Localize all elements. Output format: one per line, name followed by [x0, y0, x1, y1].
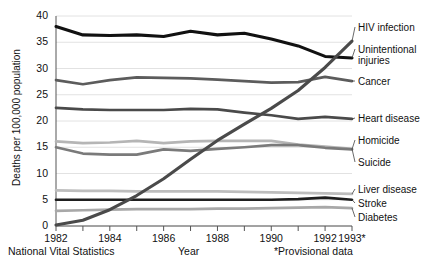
series-line-heart-disease: [56, 108, 352, 119]
x-tick-label: 1988: [197, 232, 237, 244]
leader-line: [352, 189, 355, 194]
series-label-injuries: injuries: [358, 55, 390, 66]
y-tick-label: 35: [26, 35, 48, 47]
y-tick-label: 5: [26, 193, 48, 205]
y-tick-label: 30: [26, 62, 48, 74]
x-axis-title: Year: [178, 245, 199, 257]
series-line-stroke: [56, 198, 352, 200]
y-tick-label: 0: [26, 219, 48, 231]
chart-figure: Deaths per 100,000 population HIV infect…: [0, 0, 430, 269]
source-caption: National Vital Statistics: [8, 245, 115, 257]
series-line-liver-disease: [56, 190, 352, 194]
series-label-unintentional: Unintentional: [358, 44, 416, 55]
series-label-diabetes: Diabetes: [358, 212, 397, 223]
series-label-hiv: HIV infection: [358, 22, 415, 33]
series-label-suicide: Suicide: [358, 157, 391, 168]
series-label-stroke: Stroke: [358, 198, 387, 209]
x-tick-label: 1984: [90, 232, 130, 244]
leader-line: [352, 149, 355, 162]
x-tick-label: 1990: [251, 232, 291, 244]
y-tick-label: 10: [26, 167, 48, 179]
y-tick-label: 25: [26, 88, 48, 100]
y-tick-label: 15: [26, 140, 48, 152]
x-tick-label: 1993*: [332, 232, 372, 244]
x-tick-label: 1986: [144, 232, 184, 244]
series-label-cancer: Cancer: [358, 76, 390, 87]
leader-line: [352, 200, 355, 203]
x-tick-label: 1982: [36, 232, 76, 244]
leader-line: [352, 49, 355, 58]
series-label-heart: Heart disease: [358, 113, 420, 124]
leader-line: [352, 208, 355, 217]
provisional-note: *Provisional data: [274, 245, 353, 257]
series-label-homicide: Homicide: [358, 135, 400, 146]
series-label-liver: Liver disease: [358, 184, 417, 195]
leader-line: [352, 27, 355, 41]
y-tick-label: 20: [26, 114, 48, 126]
series-line-diabetes: [56, 207, 352, 211]
leader-line: [352, 140, 355, 149]
y-tick-label: 40: [26, 9, 48, 21]
